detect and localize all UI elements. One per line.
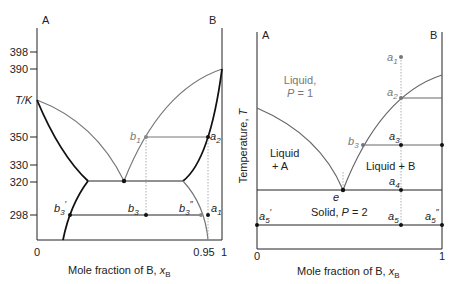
- right-corner-b: B: [430, 29, 437, 41]
- left-corner-b: B: [209, 14, 216, 26]
- left-solvus-a: [63, 181, 88, 240]
- left-label-b3prime: b3′: [54, 199, 67, 217]
- left-x-tick-0: 0: [34, 246, 40, 258]
- left-x-tick-095: 0.95: [193, 246, 214, 258]
- left-tick-320: 320: [10, 176, 28, 188]
- right-point-a2: [399, 96, 403, 100]
- left-label-b3dprime: b3″: [179, 199, 194, 217]
- right-point-a3-end: [440, 143, 444, 147]
- right-region-solid: Solid, P = 2: [311, 206, 368, 218]
- right-point-a4: [399, 188, 403, 192]
- right-region-liquid-b: Liquid + B: [366, 160, 415, 172]
- right-corner-a: A: [262, 29, 270, 41]
- left-point-b3dprime: [199, 213, 203, 217]
- right-region-liquid-1: Liquid,: [284, 74, 316, 86]
- left-point-b1: [144, 135, 148, 139]
- left-point-b3prime: [68, 213, 72, 217]
- right-label-e: e: [333, 191, 339, 203]
- left-label-b1: b1: [130, 130, 141, 145]
- left-y-label: T/K: [15, 94, 33, 106]
- left-label-a2: a2: [210, 130, 221, 145]
- left-tick-330: 330: [10, 159, 28, 171]
- left-point-b3: [144, 213, 148, 217]
- right-diagram: A B Temperature, T Liquid, P = 1 Liquid …: [237, 29, 445, 280]
- left-x-tick-1: 1: [221, 246, 227, 258]
- right-label-b3: b3: [348, 135, 359, 150]
- left-tick-298: 298: [10, 209, 28, 221]
- right-region-liquid-a-1: Liquid: [270, 147, 299, 159]
- right-x-label: Mole fraction of B, xB: [297, 265, 400, 280]
- left-tick-390: 390: [10, 63, 28, 75]
- left-y-ticks: [30, 52, 37, 215]
- left-liquidus-a: [37, 100, 124, 181]
- right-label-a2: a2: [387, 86, 398, 101]
- phase-diagrams: A B 398 390 T/K 350 330 320 298 0 0.95 1…: [0, 0, 457, 284]
- right-point-a1: [399, 55, 403, 59]
- right-label-a4: a4: [389, 175, 400, 190]
- right-label-a5prime: a5′: [259, 207, 272, 225]
- right-label-a5dprime: a5″: [425, 207, 440, 225]
- right-point-e: [341, 188, 345, 192]
- right-label-a5: a5: [388, 210, 399, 225]
- left-label-a1: a1: [211, 202, 222, 217]
- left-diagram: A B 398 390 T/K 350 330 320 298 0 0.95 1…: [10, 14, 227, 279]
- left-x-label: Mole fraction of B, xB: [68, 264, 171, 279]
- right-x-tick-1: 1: [439, 250, 445, 262]
- right-point-a3: [399, 143, 403, 147]
- right-label-a1: a1: [387, 51, 398, 66]
- right-region-liquid-2: P = 1: [287, 87, 313, 99]
- right-y-label: Temperature, T: [237, 107, 249, 183]
- right-point-b3: [361, 143, 365, 147]
- left-corner-a: A: [42, 14, 50, 26]
- left-liquidus-b: [124, 69, 222, 181]
- right-region-liquid-a-2: + A: [272, 160, 289, 172]
- right-x-tick-0: 0: [254, 250, 260, 262]
- right-point-a5dprime: [440, 223, 444, 227]
- left-point-a1: [206, 213, 210, 217]
- right-point-a5: [399, 223, 403, 227]
- left-tick-350: 350: [10, 131, 28, 143]
- left-eutectic-point: [122, 179, 126, 183]
- right-point-a5prime: [255, 223, 259, 227]
- left-solidus-b: [183, 69, 222, 181]
- left-tick-398: 398: [10, 46, 28, 58]
- right-label-a3: a3: [389, 130, 400, 145]
